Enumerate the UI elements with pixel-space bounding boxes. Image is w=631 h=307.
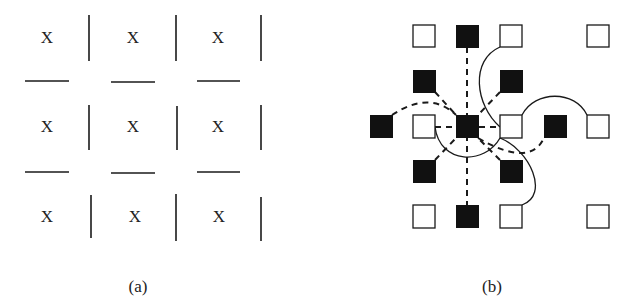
cell-x: X — [127, 117, 139, 137]
open-node — [500, 115, 522, 138]
open-node — [413, 115, 435, 138]
open-node — [413, 25, 435, 47]
filled-node — [456, 205, 479, 228]
cell-x: X — [213, 207, 225, 227]
caption-b: (b) — [482, 277, 502, 297]
cell-x: X — [212, 28, 224, 48]
open-nodes — [413, 25, 609, 228]
panel-b — [370, 25, 609, 228]
caption-a: (a) — [129, 277, 148, 297]
open-node — [587, 25, 609, 47]
center-node — [456, 115, 479, 138]
panel-a — [25, 15, 261, 241]
open-node — [500, 205, 522, 228]
cell-x: X — [127, 28, 139, 48]
open-node — [587, 115, 609, 138]
diagram-canvas — [0, 0, 631, 307]
filled-node — [500, 70, 523, 93]
filled-node — [456, 25, 479, 48]
cell-x: X — [41, 117, 53, 137]
filled-node — [413, 70, 436, 93]
filled-nodes — [370, 25, 567, 228]
filled-node — [370, 115, 393, 138]
filled-node — [544, 115, 567, 138]
open-node — [500, 25, 522, 47]
cell-x: X — [41, 28, 53, 48]
filled-node — [413, 160, 436, 183]
filled-node — [500, 160, 523, 183]
open-node — [413, 205, 435, 228]
cell-x: X — [129, 207, 141, 227]
cell-x: X — [212, 117, 224, 137]
cell-x: X — [41, 207, 53, 227]
open-node — [587, 205, 609, 228]
